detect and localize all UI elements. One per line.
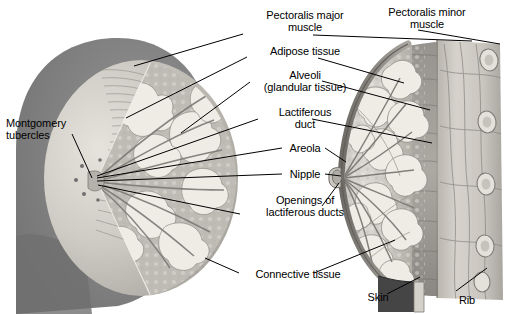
breast-anatomy-figure: Pectoralis majormusclePectoralis minormu… <box>0 0 514 314</box>
anatomical-illustration <box>0 0 514 314</box>
